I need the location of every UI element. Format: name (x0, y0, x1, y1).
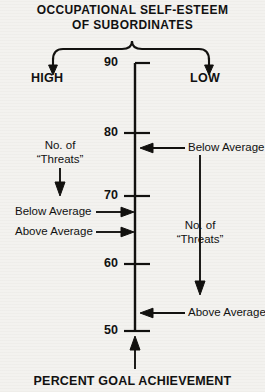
left-threat-label: No. of “Threats” (10, 138, 110, 166)
axis-caption: PERCENT GOAL ACHIEVEMENT (0, 374, 265, 388)
ytick-label-60: 60 (92, 256, 118, 270)
ann-left-below-head (121, 207, 134, 217)
right-threat-arrow-head (195, 281, 205, 295)
ytick-label-80: 80 (92, 125, 118, 139)
right-threat-label-line-1: No. of (150, 218, 250, 232)
ann-right-below-head (140, 143, 153, 153)
ann-right-above-head (140, 308, 153, 318)
right-threat-label: No. of “Threats” (150, 218, 250, 246)
annotation-low-below-average: Below Average (188, 141, 265, 153)
ytick-label-90: 90 (92, 55, 118, 69)
right-threat-label-line-2: “Threats” (150, 232, 250, 246)
axis-caption-arrow-head (130, 336, 140, 350)
condition-label-high: HIGH (31, 71, 63, 85)
left-threat-label-line-1: No. of (10, 138, 110, 152)
ytick-label-50: 50 (92, 323, 118, 337)
annotation-high-below-average: Below Average (15, 205, 92, 217)
ytick-label-70: 70 (92, 188, 118, 202)
annotation-low-above-average: Above Average (188, 306, 265, 318)
ann-left-above-head (121, 227, 134, 237)
condition-label-low: LOW (190, 71, 220, 85)
figure-canvas: OCCUPATIONAL SELF-ESTEEM OF SUBORDINATES (0, 0, 265, 392)
left-threat-arrow-head (55, 182, 65, 196)
chart-vector-layer (0, 0, 265, 392)
condition-brace (53, 41, 209, 60)
annotation-high-above-average: Above Average (15, 225, 93, 237)
left-threat-label-line-2: “Threats” (10, 152, 110, 166)
